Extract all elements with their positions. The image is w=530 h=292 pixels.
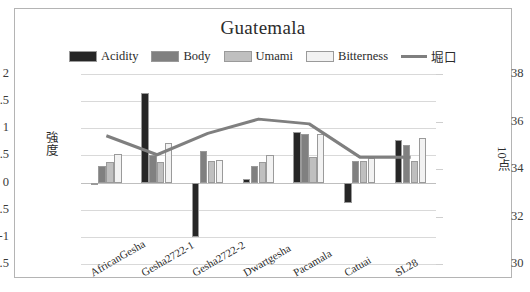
y-axis-tick-label: 1.5 xyxy=(0,93,9,108)
secondary-y-axis-tick-label: 36 xyxy=(511,114,530,129)
secondary-y-axis-tick-label: 34 xyxy=(511,161,530,176)
y-axis-tick-label: 1 xyxy=(0,120,9,135)
legend-label-acidity: Acidity xyxy=(101,49,139,64)
legend-swatch-body xyxy=(151,51,179,62)
legend-item-umami: Umami xyxy=(224,49,294,64)
legend-label-horiguchi: 堀口 xyxy=(431,47,457,66)
chart-legend: Acidity Body Umami Bitterness 堀口 xyxy=(15,47,511,66)
legend-item-bitterness: Bitterness xyxy=(306,49,388,64)
secondary-y-axis-tick-label: 30 xyxy=(511,256,530,271)
y-axis-tick-label: 0 xyxy=(0,175,9,190)
legend-swatch-horiguchi xyxy=(401,55,427,58)
legend-item-horiguchi: 堀口 xyxy=(401,47,457,66)
axis-tickmark xyxy=(436,122,443,123)
axis-tickmark xyxy=(436,169,443,170)
legend-label-umami: Umami xyxy=(256,49,294,64)
y-axis-tick-label: -1.5 xyxy=(0,256,9,271)
axis-tickmark xyxy=(436,217,443,218)
chart-frame: Guatemala Acidity Body Umami Bitterness … xyxy=(14,8,512,278)
y-axis-tick-label: 2 xyxy=(0,66,9,81)
axis-tickmark xyxy=(436,264,443,265)
chart-title: Guatemala xyxy=(15,17,511,39)
legend-swatch-bitterness xyxy=(306,51,334,62)
secondary-y-axis-tick-label: 38 xyxy=(511,66,530,81)
legend-swatch-umami xyxy=(224,51,252,62)
y-axis-label: 強度 xyxy=(41,131,60,157)
line-series-horiguchi xyxy=(81,74,436,264)
y-axis-tick-label: -0.5 xyxy=(0,202,9,217)
legend-item-body: Body xyxy=(151,49,210,64)
secondary-y-axis-tick-label: 32 xyxy=(511,209,530,224)
legend-label-bitterness: Bitterness xyxy=(338,49,388,64)
plot-area: -1.5-1-0.500.511.523032343638AfricanGesh… xyxy=(81,74,436,264)
y-axis-tick-label: 0.5 xyxy=(0,147,9,162)
y-axis-tick-label: -1 xyxy=(0,229,9,244)
secondary-y-axis-label: 10点 xyxy=(493,146,512,172)
legend-item-acidity: Acidity xyxy=(69,49,139,64)
legend-swatch-acidity xyxy=(69,51,97,62)
legend-label-body: Body xyxy=(183,49,210,64)
axis-tickmark xyxy=(436,74,443,75)
